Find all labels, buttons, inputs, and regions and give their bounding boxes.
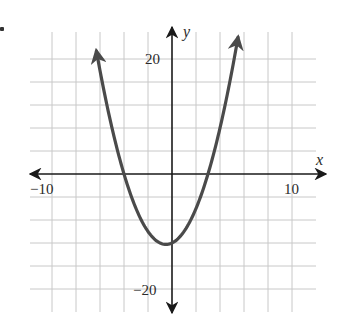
- y-tick-20: 20: [145, 51, 160, 67]
- parabola-graph: y x 20 −20 −10 10: [0, 0, 347, 332]
- x-tick-10: 10: [284, 181, 299, 197]
- x-tick-neg10: −10: [30, 181, 53, 197]
- y-axis-label: y: [181, 23, 191, 41]
- grid-lines: [30, 32, 316, 312]
- parabola-curve: [96, 37, 238, 244]
- x-axis-label: x: [315, 151, 323, 168]
- y-tick-neg20: −20: [133, 282, 156, 298]
